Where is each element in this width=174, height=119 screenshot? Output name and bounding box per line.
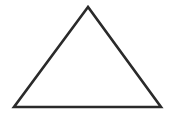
triangle-shape [14, 7, 161, 107]
triangle-figure [0, 0, 174, 119]
diagram-canvas [0, 0, 174, 119]
